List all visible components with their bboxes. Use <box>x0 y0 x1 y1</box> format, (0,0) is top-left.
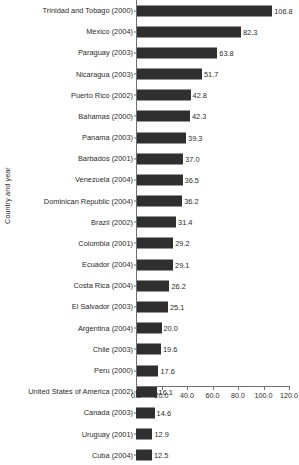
bar-row: Paraguay (2003)63.8 <box>14 42 296 63</box>
bar <box>136 111 190 122</box>
bar <box>136 259 173 270</box>
category-label: Brazil (2002) <box>14 218 136 227</box>
category-label: Bahamas (2000) <box>14 112 136 121</box>
bar-value-label: 12.5 <box>152 451 168 460</box>
bar-value-label: 14.6 <box>155 408 171 417</box>
bar-rows: Trinidad and Tobago (2000)106.8Mexico (2… <box>14 0 296 386</box>
bar-value-label: 42.8 <box>191 91 207 100</box>
bar-zone: 20.0 <box>136 318 296 339</box>
bar <box>136 90 191 101</box>
category-label: Colombia (2001) <box>14 239 136 248</box>
bar-row: Ecuador (2004)29.1 <box>14 254 296 275</box>
category-label: Canada (2003) <box>14 408 136 417</box>
bar-zone: 31.4 <box>136 212 296 233</box>
x-tick-label: 100.0 <box>255 391 273 400</box>
bar-row: Puerto Rico (2002)42.8 <box>14 85 296 106</box>
x-tick-label: 20.0 <box>155 391 169 400</box>
bar-value-label: 17.6 <box>158 366 174 375</box>
bar-value-label: 12.9 <box>152 430 168 439</box>
x-tick <box>213 386 214 390</box>
bar-value-label: 31.4 <box>176 218 192 227</box>
bar-zone: 42.3 <box>136 106 296 127</box>
bar-zone: 12.5 <box>136 445 296 465</box>
category-label: Nicaragua (2003) <box>14 70 136 79</box>
bar-value-label: 36.2 <box>182 197 198 206</box>
bar <box>136 196 182 207</box>
x-tick-label: 40.0 <box>180 391 194 400</box>
bar-row: Colombia (2001)29.2 <box>14 233 296 254</box>
category-label: Puerto Rico (2002) <box>14 91 136 100</box>
bar <box>136 217 176 228</box>
bar-zone: 25.1 <box>136 296 296 317</box>
bar-zone: 106.8 <box>136 0 296 21</box>
bar <box>136 450 152 461</box>
x-tick <box>264 386 265 390</box>
bar <box>136 429 152 440</box>
bar <box>136 174 183 185</box>
category-label: Ecuador (2004) <box>14 260 136 269</box>
bar-row: Dominican Republic (2004)36.2 <box>14 191 296 212</box>
category-label: Peru (2000) <box>14 366 136 375</box>
bar-zone: 37.0 <box>136 148 296 169</box>
bar-zone: 29.2 <box>136 233 296 254</box>
bar <box>136 238 173 249</box>
bar-value-label: 25.1 <box>168 302 184 311</box>
bar-row: Argentina (2004)20.0 <box>14 318 296 339</box>
bar-zone: 42.8 <box>136 85 296 106</box>
y-axis-title-text: Country and year <box>3 167 12 224</box>
x-tick <box>162 386 163 390</box>
bar-row: Mexico (2004)82.3 <box>14 21 296 42</box>
bar-value-label: 29.1 <box>173 260 189 269</box>
bar <box>136 344 161 355</box>
bar-value-label: 19.6 <box>161 345 177 354</box>
bar <box>136 153 183 164</box>
category-label: Trinidad and Tobago (2000) <box>14 6 136 15</box>
bar-row: Cuba (2004)12.5 <box>14 445 296 465</box>
bar <box>136 47 217 58</box>
x-tick <box>187 386 188 390</box>
x-tick-label: 60.0 <box>206 391 220 400</box>
category-label: Uruguay (2001) <box>14 430 136 439</box>
bar-zone: 29.1 <box>136 254 296 275</box>
bar-value-label: 29.2 <box>173 239 189 248</box>
bar <box>136 323 162 334</box>
bar-value-label: 36.5 <box>183 175 199 184</box>
x-tick-label: 120.0 <box>280 391 298 400</box>
y-axis-line <box>136 0 137 386</box>
bar-zone: 12.9 <box>136 423 296 444</box>
bar-row: Trinidad and Tobago (2000)106.8 <box>14 0 296 21</box>
category-label: Chile (2003) <box>14 345 136 354</box>
bar-zone: 17.6 <box>136 360 296 381</box>
bar-zone: 39.3 <box>136 127 296 148</box>
category-label: El Salvador (2003) <box>14 302 136 311</box>
bar-row: Bahamas (2000)42.3 <box>14 106 296 127</box>
x-axis-ticks: 0.020.040.060.080.0100.0120.0 <box>136 386 289 406</box>
bar-value-label: 26.2 <box>169 281 185 290</box>
bar <box>136 301 168 312</box>
bar <box>136 132 186 143</box>
bar-row: Costa Rica (2004)26.2 <box>14 275 296 296</box>
category-label: Paraguay (2003) <box>14 48 136 57</box>
bar-value-label: 106.8 <box>272 6 293 15</box>
category-label: Venezuela (2004) <box>14 175 136 184</box>
x-tick <box>136 386 137 390</box>
bar <box>136 26 241 37</box>
category-label: Dominican Republic (2004) <box>14 197 136 206</box>
bar-zone: 26.2 <box>136 275 296 296</box>
category-label: Costa Rica (2004) <box>14 281 136 290</box>
plot-area: Trinidad and Tobago (2000)106.8Mexico (2… <box>14 0 296 390</box>
bar-value-label: 51.7 <box>202 70 218 79</box>
bar-value-label: 20.0 <box>162 324 178 333</box>
bar-value-label: 37.0 <box>183 154 199 163</box>
bar-row: Peru (2000)17.6 <box>14 360 296 381</box>
x-tick <box>289 386 290 390</box>
category-label: Mexico (2004) <box>14 27 136 36</box>
y-axis-title: Country and year <box>0 0 14 390</box>
category-label: Cuba (2004) <box>14 451 136 460</box>
bar <box>136 365 158 376</box>
category-label: Argentina (2004) <box>14 324 136 333</box>
bar-value-label: 63.8 <box>217 48 233 57</box>
bar-zone: 63.8 <box>136 42 296 63</box>
bar-value-label: 82.3 <box>241 27 257 36</box>
